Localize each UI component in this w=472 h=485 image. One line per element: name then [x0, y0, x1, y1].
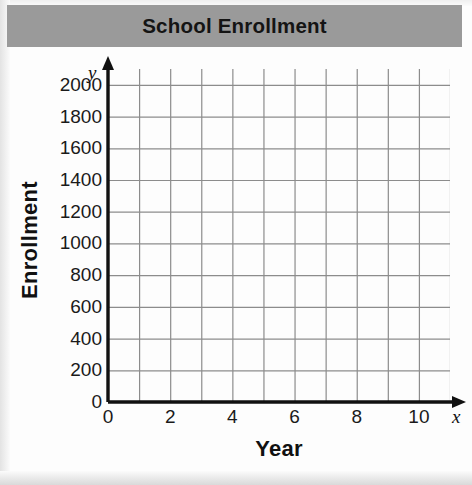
x-tick-label: 2 — [165, 406, 176, 428]
x-tick-label: 8 — [351, 406, 362, 428]
x-tick-label: 4 — [227, 406, 238, 428]
y-tick-label: 800 — [70, 264, 102, 286]
y-axis-title: Enrollment — [10, 140, 50, 340]
chart-title: School Enrollment — [142, 14, 327, 38]
x-axis-variable-letter: x — [452, 406, 460, 428]
chart-figure: School Enrollment 0200400600800100012001… — [0, 0, 472, 485]
y-axis-variable-letter: y — [88, 62, 96, 84]
y-tick-label: 200 — [70, 359, 102, 381]
y-tick-label: 1600 — [60, 137, 102, 159]
y-tick-label: 400 — [70, 328, 102, 350]
y-axis-title-text: Enrollment — [17, 181, 43, 299]
plot-area — [108, 69, 450, 402]
x-axis-tick-labels: 0246810 — [0, 406, 472, 436]
grid-lines — [108, 69, 450, 402]
x-tick-label: 10 — [408, 406, 429, 428]
y-tick-label: 600 — [70, 296, 102, 318]
x-tick-label: 0 — [103, 406, 114, 428]
x-axis-title: Year — [108, 436, 450, 462]
y-tick-label: 1800 — [60, 106, 102, 128]
y-tick-label: 1200 — [60, 201, 102, 223]
x-tick-label: 6 — [289, 406, 300, 428]
y-tick-label: 1400 — [60, 169, 102, 191]
y-tick-label: 1000 — [60, 232, 102, 254]
